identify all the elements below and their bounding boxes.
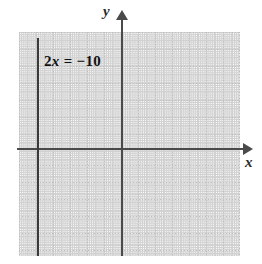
y-axis-arrow-icon: [116, 10, 128, 20]
y-axis: [121, 16, 123, 256]
x-axis-label: x: [245, 154, 253, 171]
plotted-vertical-line: [37, 38, 39, 256]
y-axis-label: y: [103, 3, 110, 20]
equation-annotation: 2x = −10: [44, 53, 101, 70]
equation-variable: x: [52, 53, 60, 69]
equation-coefficient: 2: [44, 53, 52, 69]
coordinate-plane-figure: y x 2x = −10: [0, 0, 262, 264]
x-axis: [17, 148, 251, 150]
equation-rest: = −10: [60, 53, 101, 69]
